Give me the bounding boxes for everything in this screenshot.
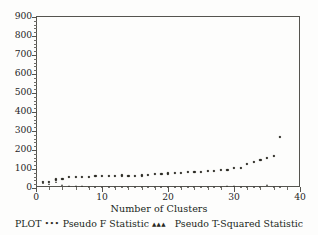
- data-point-f-statistic: [246, 163, 248, 165]
- x-axis-minor-tick: [287, 187, 288, 190]
- data-point-f-statistic: [61, 178, 63, 180]
- x-axis-tick-label: 40: [294, 192, 306, 202]
- plot-area: [36, 16, 300, 187]
- data-point-f-statistic: [94, 175, 96, 177]
- x-axis-minor-tick: [155, 187, 156, 190]
- data-point-f-statistic: [253, 161, 255, 163]
- y-axis-tick-label: 600: [15, 68, 32, 77]
- data-point-f-statistic: [180, 172, 182, 174]
- data-point-f-statistic: [121, 174, 123, 176]
- data-point-f-statistic: [147, 174, 149, 176]
- legend-dot-marker-icon: •••: [45, 218, 60, 229]
- y-axis-tick-label: 200: [15, 144, 32, 153]
- y-axis-tick-label: 900: [15, 11, 32, 20]
- y-axis-tick-label: 800: [15, 30, 32, 39]
- y-axis-tick-label: 300: [15, 125, 32, 134]
- data-point-t-squared: [55, 181, 57, 183]
- x-axis-minor-tick: [247, 187, 248, 190]
- data-point-f-statistic: [160, 173, 162, 175]
- x-axis-minor-tick: [181, 187, 182, 190]
- x-axis-minor-tick: [49, 187, 50, 190]
- x-axis-minor-tick: [89, 187, 90, 190]
- legend-triangle-marker-icon: ▲▲▲: [152, 219, 166, 230]
- x-axis-minor-tick: [115, 187, 116, 190]
- y-axis-tick-label: 0: [26, 182, 32, 191]
- x-axis-tick-label: 30: [228, 192, 240, 202]
- x-axis-minor-tick: [194, 187, 195, 190]
- chart-figure: 0100200300400500600700800900 010203040 N…: [0, 0, 318, 235]
- legend-prefix-label: PLOT: [15, 218, 42, 229]
- data-point-f-statistic: [141, 174, 143, 176]
- y-axis-tick-label: 700: [15, 49, 32, 58]
- data-point-f-statistic: [55, 178, 57, 180]
- chart-legend: PLOT ••• Pseudo F Statistic ▲▲▲ Pseudo T…: [0, 218, 318, 230]
- data-point-f-statistic: [101, 175, 103, 177]
- data-point-f-statistic: [187, 171, 189, 173]
- data-point-f-statistic: [88, 176, 90, 178]
- y-axis-tick-label: 500: [15, 87, 32, 96]
- x-axis-minor-tick: [128, 187, 129, 190]
- x-axis-minor-tick: [208, 187, 209, 190]
- data-point-f-statistic: [220, 169, 222, 171]
- x-axis-tick-label: 0: [33, 192, 39, 202]
- data-point-f-statistic: [213, 170, 215, 172]
- x-axis-minor-tick: [142, 187, 143, 190]
- data-point-f-statistic: [174, 172, 176, 174]
- data-point-t-squared: [42, 182, 44, 184]
- data-point-f-statistic: [75, 176, 77, 178]
- data-point-f-statistic: [207, 170, 209, 172]
- x-axis-minor-tick: [274, 187, 275, 190]
- data-point-t-squared: [61, 184, 63, 186]
- data-point-f-statistic: [266, 157, 268, 159]
- x-axis-tick-label: 10: [96, 192, 108, 202]
- data-point-f-statistic: [226, 168, 228, 170]
- data-point-f-statistic: [114, 175, 116, 177]
- data-point-f-statistic: [81, 176, 83, 178]
- data-point-f-statistic: [233, 167, 235, 169]
- legend-entry-f-statistic: Pseudo F Statistic: [63, 218, 149, 229]
- data-point-f-statistic: [259, 159, 261, 161]
- data-point-f-statistic: [273, 155, 275, 157]
- x-axis-tick-label: 20: [162, 192, 174, 202]
- data-point-f-statistic: [134, 175, 136, 177]
- x-axis-minor-tick: [62, 187, 63, 190]
- x-axis-minor-tick: [76, 187, 77, 190]
- data-point-f-statistic: [127, 175, 129, 177]
- data-point-f-statistic: [200, 171, 202, 173]
- y-axis-tick-label: 100: [15, 163, 32, 172]
- data-point-f-statistic: [68, 175, 70, 177]
- legend-entry-t-squared-statistic: Pseudo T-Squared Statistic: [175, 218, 303, 229]
- data-point-t-squared: [48, 183, 50, 185]
- y-axis-tick-label: 400: [15, 106, 32, 115]
- data-point-f-statistic: [154, 173, 156, 175]
- data-point-f-statistic: [193, 171, 195, 173]
- data-point-f-statistic: [108, 175, 110, 177]
- data-point-f-statistic: [240, 167, 242, 169]
- x-axis-minor-tick: [260, 187, 261, 190]
- x-axis-title: Number of Clusters: [0, 203, 318, 214]
- data-point-f-statistic: [167, 172, 169, 174]
- x-axis-minor-tick: [221, 187, 222, 190]
- data-point-f-statistic: [279, 136, 281, 138]
